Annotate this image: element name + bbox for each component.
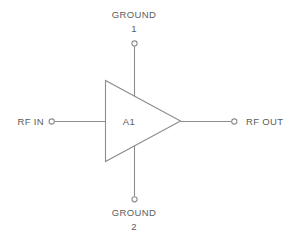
label-ground-2-name: GROUND <box>112 207 156 218</box>
label-ground-1-number: 1 <box>131 23 137 34</box>
terminal-rf-out[interactable] <box>232 119 237 124</box>
label-rf-out: RF OUT <box>246 116 283 127</box>
label-rf-in: RF IN <box>17 116 44 127</box>
terminal-ground-1[interactable] <box>132 41 137 46</box>
label-ground-2-number: 2 <box>131 221 137 232</box>
terminal-rf-in[interactable] <box>49 119 54 124</box>
rf-amplifier-diagram: GROUND 1 RF IN RF OUT A1 GROUND 2 <box>0 0 301 242</box>
label-reference-designator: A1 <box>123 116 135 127</box>
amplifier-symbol-triangle <box>106 81 181 162</box>
terminal-ground-2[interactable] <box>132 197 137 202</box>
label-ground-1-name: GROUND <box>112 9 156 20</box>
